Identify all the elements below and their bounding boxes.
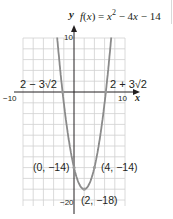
function-label: f(x) = x2 − 4x − 14 <box>80 8 161 22</box>
point-label-4-neg14: (4, −14) <box>101 162 137 173</box>
vertex-label: (2, −18) <box>81 195 117 206</box>
root-right-label: 2 + 3√2 <box>110 79 147 90</box>
point-label-0-neg14: (0, −14) <box>33 162 69 173</box>
curve-layer <box>0 0 173 219</box>
y-tick-max: 10 <box>64 34 73 42</box>
y-axis-label: y <box>69 8 74 20</box>
x-axis-label: x <box>135 92 140 103</box>
x-tick-min: −10 <box>3 95 17 103</box>
right-border <box>171 0 172 24</box>
root-left-label: 2 − 3√2 <box>20 79 57 90</box>
x-tick-max: 10 <box>118 95 127 103</box>
exponent: 2 <box>112 8 116 17</box>
y-tick-min: −20 <box>60 199 74 207</box>
